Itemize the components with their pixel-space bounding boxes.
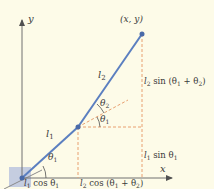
y-axis-label: y xyxy=(27,13,34,24)
link2-label: l2 xyxy=(98,69,106,82)
elbow-joint xyxy=(76,125,81,130)
link-2 xyxy=(78,34,142,127)
l2-sin-label: l2 sin (θ1 + θ2) xyxy=(144,76,206,87)
x-axis-label: x xyxy=(160,163,166,174)
theta1-elbow-label: θ1 xyxy=(100,114,109,125)
arm-diagram: y x (x, y) l1 l2 θ1 θ1 θ2 l1 cos θ1 l2 c… xyxy=(0,0,214,189)
l2-cos-label: l2 cos (θ1 + θ2) xyxy=(80,178,143,189)
link1-label: l1 xyxy=(46,128,54,141)
end-point-label: (x, y) xyxy=(120,14,143,24)
theta1-base-arc xyxy=(43,166,46,178)
l1-sin-label: l1 sin θ1 xyxy=(144,150,177,161)
theta1-base-label: θ1 xyxy=(48,152,57,163)
theta2-label: θ2 xyxy=(100,98,109,109)
end-effector xyxy=(140,32,145,37)
